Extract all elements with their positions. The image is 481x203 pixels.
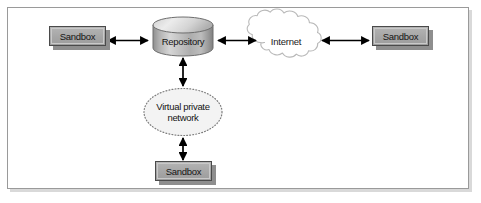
node-sandbox-left[interactable]: Sandbox	[49, 26, 106, 46]
node-vpn[interactable]: Virtual private network	[144, 98, 222, 126]
sandbox-bottom-label: Sandbox	[155, 166, 212, 177]
node-sandbox-bottom[interactable]: Sandbox	[155, 161, 212, 181]
node-repository[interactable]: Repository	[153, 25, 213, 56]
repository-label: Repository	[153, 36, 213, 47]
vpn-label: Virtual private network	[144, 101, 222, 124]
diagram-figure: Sandbox Repository Internet Sandbox Virt…	[0, 0, 481, 203]
sandbox-right-label: Sandbox	[372, 31, 429, 42]
sandbox-left-label: Sandbox	[49, 31, 106, 42]
internet-label: Internet	[250, 35, 322, 46]
node-sandbox-right[interactable]: Sandbox	[372, 26, 429, 46]
node-internet[interactable]: Internet	[250, 24, 322, 57]
